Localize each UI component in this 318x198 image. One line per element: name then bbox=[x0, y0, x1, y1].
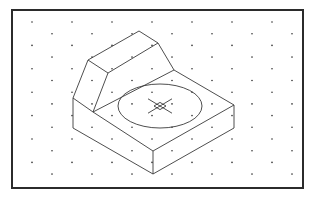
grid-dot bbox=[71, 162, 73, 164]
grid-dot bbox=[251, 56, 253, 58]
grid-dot bbox=[91, 127, 93, 129]
grid-dot bbox=[271, 68, 273, 70]
grid-dot bbox=[151, 21, 153, 23]
grid-dot bbox=[151, 115, 153, 117]
grid-dot bbox=[131, 127, 133, 129]
grid-dot bbox=[91, 150, 93, 152]
grid-dot bbox=[171, 56, 173, 58]
grid-dot bbox=[291, 173, 293, 175]
grid-dot bbox=[51, 33, 53, 35]
grid-dot bbox=[211, 56, 213, 58]
grid-dot bbox=[31, 68, 33, 70]
grid-dot bbox=[191, 21, 193, 23]
grid-dot bbox=[51, 127, 53, 129]
drawing-frame bbox=[12, 10, 303, 188]
grid-dot bbox=[211, 33, 213, 35]
grid-dot bbox=[71, 21, 73, 23]
grid-dot bbox=[231, 91, 233, 93]
grid-dot bbox=[171, 80, 173, 82]
grid-dot bbox=[271, 115, 273, 117]
grid-dot bbox=[31, 21, 33, 23]
grid-dot bbox=[251, 150, 253, 152]
grid-dot bbox=[291, 127, 293, 129]
grid-dot bbox=[71, 45, 73, 47]
grid-dot bbox=[71, 68, 73, 70]
grid-dot bbox=[251, 103, 253, 105]
grid-dot bbox=[271, 91, 273, 93]
grid-dot bbox=[111, 115, 113, 117]
grid-dot bbox=[231, 115, 233, 117]
grid-dot bbox=[91, 103, 93, 105]
grid-dot bbox=[291, 33, 293, 35]
grid-dot bbox=[91, 80, 93, 82]
grid-dot bbox=[51, 150, 53, 152]
grid-dot bbox=[111, 68, 113, 70]
grid-dot bbox=[251, 80, 253, 82]
grid-dot bbox=[71, 91, 73, 93]
grid-dot bbox=[131, 103, 133, 105]
grid-dot bbox=[251, 33, 253, 35]
grid-dot bbox=[31, 138, 33, 140]
grid-dot bbox=[211, 127, 213, 129]
grid-dot bbox=[231, 68, 233, 70]
grid-dot bbox=[271, 138, 273, 140]
grid-dot bbox=[51, 80, 53, 82]
grid-dot bbox=[211, 173, 213, 175]
grid-dot bbox=[191, 138, 193, 140]
grid-dot bbox=[211, 150, 213, 152]
grid-dot bbox=[171, 33, 173, 35]
grid-dot bbox=[131, 173, 133, 175]
grid-dot bbox=[291, 150, 293, 152]
grid-dot bbox=[71, 138, 73, 140]
grid-dot bbox=[271, 162, 273, 164]
grid-dot bbox=[171, 150, 173, 152]
grid-dot bbox=[31, 115, 33, 117]
grid-dot bbox=[171, 173, 173, 175]
grid-dot bbox=[31, 45, 33, 47]
grid-dot bbox=[151, 138, 153, 140]
grid-dot bbox=[231, 21, 233, 23]
grid-dot bbox=[131, 56, 133, 58]
grid-dot bbox=[31, 162, 33, 164]
grid-dot bbox=[51, 103, 53, 105]
grid-dot bbox=[211, 103, 213, 105]
grid-dot bbox=[211, 80, 213, 82]
grid-dot bbox=[111, 21, 113, 23]
grid-dot bbox=[251, 127, 253, 129]
grid-dot bbox=[191, 115, 193, 117]
grid-dot bbox=[111, 162, 113, 164]
grid-dot bbox=[51, 173, 53, 175]
grid-dot bbox=[171, 103, 173, 105]
grid-dot bbox=[31, 91, 33, 93]
grid-dot bbox=[291, 103, 293, 105]
grid-dot bbox=[271, 21, 273, 23]
grid-dot bbox=[111, 91, 113, 93]
grid-dot bbox=[151, 91, 153, 93]
grid-dot bbox=[191, 162, 193, 164]
grid-dot bbox=[91, 173, 93, 175]
grid-dot bbox=[131, 80, 133, 82]
grid-dot bbox=[91, 33, 93, 35]
grid-dot bbox=[271, 45, 273, 47]
grid-dot bbox=[231, 45, 233, 47]
grid-dot bbox=[251, 173, 253, 175]
grid-dot bbox=[231, 138, 233, 140]
grid-dot bbox=[191, 68, 193, 70]
grid-dot bbox=[291, 56, 293, 58]
grid-dot bbox=[231, 162, 233, 164]
grid-dot bbox=[151, 68, 153, 70]
grid-dot bbox=[291, 80, 293, 82]
isometric-drawing-canvas bbox=[0, 0, 318, 198]
grid-dot bbox=[131, 150, 133, 152]
grid-dot bbox=[111, 138, 113, 140]
grid-dot bbox=[51, 56, 53, 58]
grid-dot bbox=[191, 45, 193, 47]
